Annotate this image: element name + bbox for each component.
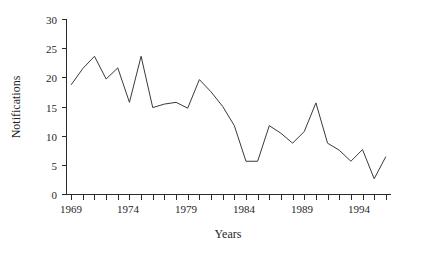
x-tick-label-1994: 1994 xyxy=(348,203,371,215)
y-tick-label-20: 20 xyxy=(46,72,58,84)
x-tick-label-1979: 1979 xyxy=(175,203,198,215)
y-axis-ticks xyxy=(62,20,67,195)
x-axis-ticks xyxy=(72,195,387,200)
x-tick-label-1969: 1969 xyxy=(60,203,83,215)
y-tick-label-15: 15 xyxy=(46,102,58,114)
chart-figure: 30 25 20 15 10 5 0 1969 1974 1979 1984 1… xyxy=(0,0,423,254)
x-tick-label-1984: 1984 xyxy=(233,203,256,215)
y-tick-label-30: 30 xyxy=(46,14,58,26)
notifications-series-line xyxy=(71,56,386,179)
y-tick-label-0: 0 xyxy=(52,189,58,201)
line-chart: 30 25 20 15 10 5 0 1969 1974 1979 1984 1… xyxy=(0,0,423,254)
y-axis-title: Notifications xyxy=(9,75,23,138)
y-tick-label-10: 10 xyxy=(46,131,58,143)
x-axis-title: Years xyxy=(215,227,242,241)
y-tick-label-5: 5 xyxy=(52,160,58,172)
x-tick-label-1989: 1989 xyxy=(291,203,314,215)
y-tick-label-25: 25 xyxy=(46,43,58,55)
x-tick-label-1974: 1974 xyxy=(117,203,140,215)
